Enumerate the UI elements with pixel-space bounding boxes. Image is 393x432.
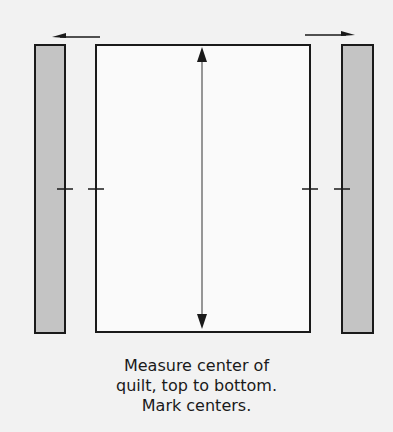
quilt-top <box>96 45 310 332</box>
right-arrow-icon <box>305 31 355 36</box>
caption: Measure center of quilt, top to bottom. … <box>0 356 393 416</box>
left-arrow-icon <box>52 33 100 38</box>
caption-line-2: quilt, top to bottom. <box>0 376 393 396</box>
caption-line-3: Mark centers. <box>0 396 393 416</box>
caption-line-1: Measure center of <box>0 356 393 376</box>
